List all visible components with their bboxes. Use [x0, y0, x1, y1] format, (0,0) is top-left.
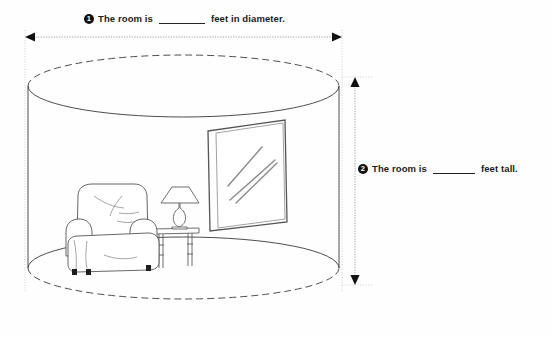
window: [208, 120, 287, 231]
question-1-text-after: feet in diameter.: [211, 13, 285, 24]
chair-seat-front: [68, 233, 159, 272]
question-2-badge: 2: [358, 164, 368, 174]
lamp-foot: [172, 227, 187, 229]
question-2-text-after: feet tall.: [481, 163, 518, 174]
question-1-label: 1 The room is feet in diameter.: [84, 13, 285, 24]
question-2-blank[interactable]: [433, 164, 475, 174]
question-1-blank[interactable]: [159, 14, 205, 24]
question-1-text-before: The room is: [98, 13, 153, 24]
caster-1: [72, 269, 77, 275]
caster-2: [86, 269, 91, 275]
caster-3: [146, 265, 151, 271]
question-2-label: 2 The room is feet tall.: [358, 163, 518, 174]
window-inner-frame: [216, 123, 285, 228]
question-2-text-before: The room is: [372, 163, 427, 174]
recliner-armchair: [66, 184, 159, 275]
question-1-badge: 1: [84, 14, 94, 24]
